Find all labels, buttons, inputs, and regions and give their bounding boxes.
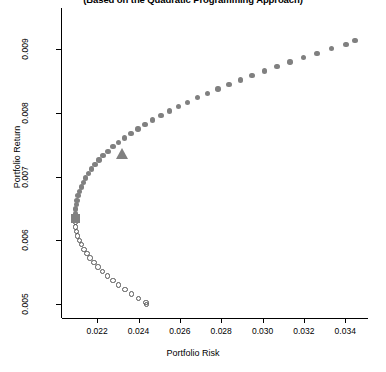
x-tick xyxy=(221,318,222,323)
data-point xyxy=(128,131,133,136)
x-tick-label: 0.034 xyxy=(325,326,365,336)
data-point xyxy=(249,73,254,78)
data-point xyxy=(105,149,110,154)
data-point xyxy=(185,100,190,105)
data-point xyxy=(158,113,163,118)
x-tick-label: 0.024 xyxy=(119,326,159,336)
data-point xyxy=(176,104,181,109)
x-tick xyxy=(263,318,264,323)
x-tick xyxy=(139,318,140,323)
data-point xyxy=(110,278,115,283)
tangency-portfolio-marker xyxy=(116,148,128,159)
data-point xyxy=(116,282,121,287)
data-point xyxy=(262,68,267,73)
data-point xyxy=(144,302,149,307)
data-point xyxy=(122,287,127,292)
data-point xyxy=(116,140,121,145)
data-point xyxy=(100,153,105,158)
data-point xyxy=(205,91,210,96)
data-point xyxy=(105,273,110,278)
x-tick-label: 0.028 xyxy=(201,326,241,336)
data-point xyxy=(238,77,243,82)
data-point xyxy=(142,122,147,127)
data-point xyxy=(274,64,279,69)
y-tick xyxy=(56,177,61,178)
data-point xyxy=(150,117,155,122)
data-point xyxy=(89,166,94,171)
data-point xyxy=(74,198,79,203)
data-point xyxy=(110,144,115,149)
data-point xyxy=(301,55,306,60)
x-axis-label: Portfolio Risk xyxy=(0,348,386,358)
data-point xyxy=(167,108,172,113)
y-tick xyxy=(56,49,61,50)
data-point xyxy=(96,157,101,162)
plot-area xyxy=(62,8,368,318)
x-tick-label: 0.032 xyxy=(284,326,324,336)
minimum-variance-portfolio-marker xyxy=(71,214,80,223)
y-tick xyxy=(56,113,61,114)
data-point xyxy=(136,296,141,301)
data-point xyxy=(73,206,78,211)
y-tick-label: 0.009 xyxy=(20,23,32,75)
y-tick-label: 0.005 xyxy=(20,278,32,330)
x-tick xyxy=(97,318,98,323)
data-point xyxy=(195,95,200,100)
data-point xyxy=(129,291,134,296)
data-point xyxy=(122,135,127,140)
chart-title: (Based on the Quadratic Programming Appr… xyxy=(0,0,386,5)
data-point xyxy=(287,59,292,64)
portfolio-frontier-chart: (Based on the Quadratic Programming Appr… xyxy=(0,0,386,372)
data-point xyxy=(314,51,319,56)
y-tick xyxy=(56,240,61,241)
data-point xyxy=(352,38,357,43)
data-point xyxy=(83,175,88,180)
y-axis-label: Portfolio Return xyxy=(12,97,22,217)
data-point xyxy=(226,82,231,87)
y-tick xyxy=(56,304,61,305)
x-tick-label: 0.030 xyxy=(243,326,283,336)
x-tick-label: 0.026 xyxy=(160,326,200,336)
x-axis-line xyxy=(62,318,368,319)
data-point xyxy=(343,42,348,47)
x-tick xyxy=(345,318,346,323)
x-tick xyxy=(304,318,305,323)
y-axis-line xyxy=(61,8,62,318)
data-point xyxy=(329,46,334,51)
x-tick xyxy=(180,318,181,323)
data-point xyxy=(215,86,220,91)
data-point xyxy=(135,126,140,131)
y-tick-label: 0.006 xyxy=(20,214,32,266)
x-tick-label: 0.022 xyxy=(77,326,117,336)
